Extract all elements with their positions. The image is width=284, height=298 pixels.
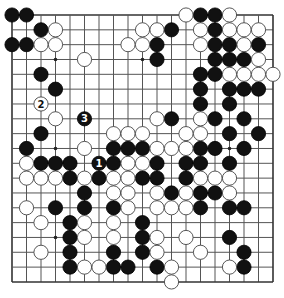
black-stone[interactable] <box>222 127 236 141</box>
black-stone[interactable] <box>251 82 265 96</box>
white-stone[interactable] <box>193 23 207 37</box>
white-stone[interactable] <box>121 201 135 215</box>
white-stone[interactable] <box>179 230 193 244</box>
white-stone[interactable] <box>135 23 149 37</box>
black-stone[interactable] <box>222 97 236 111</box>
black-stone[interactable] <box>135 230 149 244</box>
white-stone[interactable] <box>193 245 207 259</box>
black-stone[interactable] <box>19 141 33 155</box>
black-stone[interactable] <box>193 97 207 111</box>
white-stone[interactable] <box>150 112 164 126</box>
white-stone[interactable] <box>106 230 120 244</box>
white-stone[interactable] <box>92 260 106 274</box>
white-stone[interactable] <box>150 186 164 200</box>
black-stone[interactable] <box>179 156 193 170</box>
white-stone[interactable] <box>222 186 236 200</box>
white-stone[interactable] <box>135 38 149 52</box>
black-stone[interactable] <box>222 38 236 52</box>
white-stone[interactable] <box>48 112 62 126</box>
white-stone[interactable] <box>77 230 91 244</box>
black-stone[interactable] <box>251 38 265 52</box>
white-stone[interactable] <box>34 38 48 52</box>
black-stone[interactable] <box>164 23 178 37</box>
numbered-stone-2[interactable]: 2 <box>34 97 48 111</box>
black-stone[interactable] <box>222 82 236 96</box>
black-stone[interactable] <box>34 67 48 81</box>
black-stone[interactable] <box>34 23 48 37</box>
black-stone[interactable] <box>222 156 236 170</box>
white-stone[interactable] <box>121 38 135 52</box>
black-stone[interactable] <box>34 127 48 141</box>
black-stone[interactable] <box>135 245 149 259</box>
white-stone[interactable] <box>222 260 236 274</box>
black-stone[interactable] <box>150 38 164 52</box>
white-stone[interactable] <box>251 52 265 66</box>
black-stone[interactable] <box>208 52 222 66</box>
white-stone[interactable] <box>237 67 251 81</box>
white-stone[interactable] <box>164 275 178 289</box>
black-stone[interactable] <box>63 216 77 230</box>
white-stone[interactable] <box>251 67 265 81</box>
white-stone[interactable] <box>150 141 164 155</box>
black-stone[interactable] <box>135 141 149 155</box>
white-stone[interactable] <box>150 245 164 259</box>
white-stone[interactable] <box>179 201 193 215</box>
white-stone[interactable] <box>193 171 207 185</box>
black-stone[interactable] <box>164 112 178 126</box>
black-stone[interactable] <box>193 201 207 215</box>
white-stone[interactable] <box>222 8 236 22</box>
black-stone[interactable] <box>48 82 62 96</box>
white-stone[interactable] <box>77 141 91 155</box>
black-stone[interactable] <box>19 8 33 22</box>
white-stone[interactable] <box>164 201 178 215</box>
black-stone[interactable] <box>237 141 251 155</box>
white-stone[interactable] <box>121 186 135 200</box>
white-stone[interactable] <box>193 112 207 126</box>
white-stone[interactable] <box>179 186 193 200</box>
white-stone[interactable] <box>77 52 91 66</box>
white-stone[interactable] <box>121 156 135 170</box>
black-stone[interactable] <box>121 260 135 274</box>
black-stone[interactable] <box>121 141 135 155</box>
black-stone[interactable] <box>77 201 91 215</box>
white-stone[interactable] <box>266 67 280 81</box>
white-stone[interactable] <box>106 216 120 230</box>
white-stone[interactable] <box>237 23 251 37</box>
white-stone[interactable] <box>150 23 164 37</box>
white-stone[interactable] <box>179 127 193 141</box>
black-stone[interactable] <box>208 38 222 52</box>
black-stone[interactable] <box>208 67 222 81</box>
black-stone[interactable] <box>193 186 207 200</box>
black-stone[interactable] <box>48 201 62 215</box>
black-stone[interactable] <box>237 82 251 96</box>
black-stone[interactable] <box>237 201 251 215</box>
black-stone[interactable] <box>77 186 91 200</box>
white-stone[interactable] <box>222 67 236 81</box>
white-stone[interactable] <box>106 127 120 141</box>
white-stone[interactable] <box>164 260 178 274</box>
black-stone[interactable] <box>106 260 120 274</box>
black-stone[interactable] <box>5 8 19 22</box>
white-stone[interactable] <box>179 8 193 22</box>
black-stone[interactable] <box>135 216 149 230</box>
black-stone[interactable] <box>150 260 164 274</box>
black-stone[interactable] <box>34 156 48 170</box>
white-stone[interactable] <box>48 38 62 52</box>
white-stone[interactable] <box>135 156 149 170</box>
black-stone[interactable] <box>193 141 207 155</box>
white-stone[interactable] <box>164 141 178 155</box>
white-stone[interactable] <box>251 23 265 37</box>
white-stone[interactable] <box>34 245 48 259</box>
black-stone[interactable] <box>208 141 222 155</box>
numbered-stone-3[interactable]: 3 <box>77 112 91 126</box>
black-stone[interactable] <box>193 82 207 96</box>
white-stone[interactable] <box>19 201 33 215</box>
black-stone[interactable] <box>164 186 178 200</box>
white-stone[interactable] <box>77 216 91 230</box>
black-stone[interactable] <box>48 156 62 170</box>
black-stone[interactable] <box>106 141 120 155</box>
white-stone[interactable] <box>193 38 207 52</box>
white-stone[interactable] <box>121 171 135 185</box>
white-stone[interactable] <box>48 171 62 185</box>
white-stone[interactable] <box>19 171 33 185</box>
